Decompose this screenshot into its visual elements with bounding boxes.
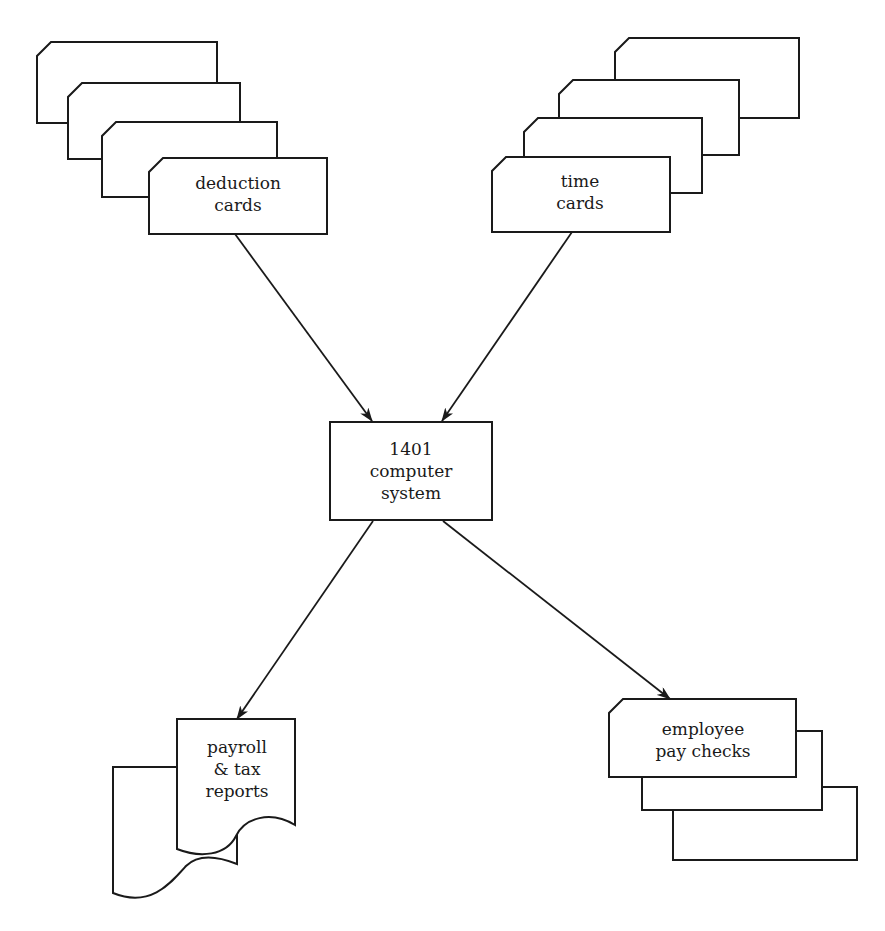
paychecks-line1: employee: [610, 718, 796, 740]
arrow-computer-to-reports: [237, 521, 373, 719]
computer-line3: system: [330, 482, 492, 504]
reports-line1: payroll: [177, 736, 297, 758]
deduction-cards-label: deduction cards: [163, 172, 313, 216]
time-cards-line2: cards: [505, 192, 655, 214]
reports-line3: reports: [177, 780, 297, 802]
computer-line2: computer: [330, 460, 492, 482]
time-cards-label: time cards: [505, 170, 655, 214]
computer-line1: 1401: [330, 438, 492, 460]
computer-system-label: 1401 computer system: [330, 438, 492, 504]
arrow-deduction-to-computer: [235, 234, 372, 421]
deduction-cards-line2: cards: [163, 194, 313, 216]
arrow-time-to-computer: [442, 232, 572, 421]
paychecks-line2: pay checks: [610, 740, 796, 762]
time-cards-line1: time: [505, 170, 655, 192]
paychecks-label: employee pay checks: [610, 718, 796, 762]
deduction-cards-line1: deduction: [163, 172, 313, 194]
reports-label: payroll & tax reports: [177, 736, 297, 802]
arrow-computer-to-paychecks: [443, 521, 670, 699]
reports-line2: & tax: [177, 758, 297, 780]
